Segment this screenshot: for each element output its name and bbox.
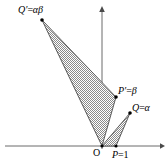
point-q-prime (40, 18, 44, 22)
large-triangle-OP-prime-Q-prime (42, 20, 116, 146)
label-q-prime-name: Q′ (18, 4, 27, 15)
label-p-value: 1 (123, 149, 128, 160)
label-q: Q=α (132, 103, 150, 113)
figure-canvas (0, 0, 168, 168)
label-p-prime: P′=β (118, 86, 137, 96)
label-q-prime-value: αβ (33, 4, 43, 15)
geometry-figure: Q′=αβ P′=β Q=α O P=1 (0, 0, 168, 168)
x-axis (5, 143, 165, 149)
label-p-prime-value: β (132, 85, 137, 96)
label-origin: O (93, 148, 100, 158)
label-p: P=1 (112, 150, 128, 160)
point-origin (100, 144, 103, 147)
label-q-prime: Q′=αβ (18, 5, 43, 15)
label-q-value: α (145, 102, 150, 113)
point-p (114, 144, 117, 147)
